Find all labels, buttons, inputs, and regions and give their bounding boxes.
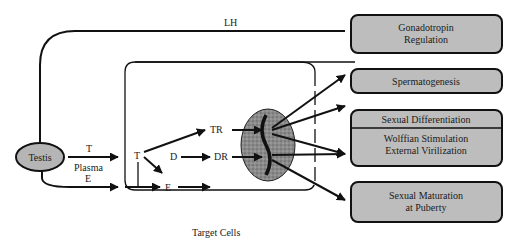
target-cell-top-edge [135, 62, 315, 72]
d-label: D [170, 151, 177, 162]
svg-text:at Puberty: at Puberty [406, 202, 447, 213]
wolffian-label: Wolffian Stimulation [384, 133, 468, 144]
target-cell-boundary [125, 62, 355, 175]
testis-label: Testis [28, 152, 51, 163]
lh-label: LH [224, 17, 237, 28]
svg-text:Gonadotropin: Gonadotropin [398, 22, 454, 33]
svg-text:Sexual Maturation: Sexual Maturation [389, 190, 463, 201]
dr-label-text: DR [214, 151, 228, 162]
tr-label: TR [210, 124, 223, 135]
plasma-e-arrow [42, 171, 118, 187]
outcome-sexual-maturation: Sexual Maturation at Puberty [351, 182, 502, 222]
plasma-t-label: T [86, 143, 92, 154]
t-to-tr-arrow [144, 130, 205, 152]
target-cells-label: Target Cells [192, 227, 240, 238]
svg-text:Regulation: Regulation [404, 34, 448, 45]
cell-t-label: T [134, 150, 140, 161]
androgen-action-diagram: LH Target Cells Testis T Plasma E T E TR… [0, 0, 520, 249]
t-to-d-arrow [144, 157, 162, 173]
outcome-sexual-differentiation-group: Sexual Differentiation Wolffian Stimulat… [351, 110, 502, 166]
arrow-to-puberty [272, 160, 345, 200]
cell-e-label: E [165, 182, 171, 193]
virilization-label: External Virilization [385, 145, 467, 156]
sexual-differentiation-label: Sexual Differentiation [382, 114, 471, 125]
arrow-to-wolffian [272, 154, 345, 155]
arrow-to-gonadotropin [272, 75, 345, 128]
svg-text:Spermatogenesis: Spermatogenesis [392, 76, 460, 87]
outcome-gonadotropin-regulation: Gonadotropin Regulation [351, 15, 502, 53]
outcome-spermatogenesis: Spermatogenesis [351, 69, 502, 93]
plasma-e-label: E [85, 173, 91, 184]
lh-feedback-arrow [40, 31, 345, 155]
plasma-label: Plasma [74, 162, 103, 173]
